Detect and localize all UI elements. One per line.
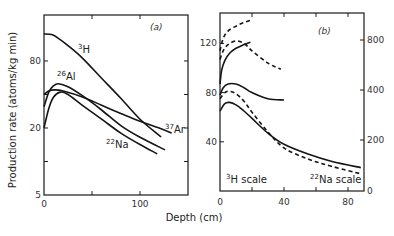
series-line-22na bbox=[44, 92, 157, 154]
series-line-3h-dashed bbox=[220, 41, 281, 69]
panel-a-frame bbox=[44, 15, 188, 195]
panel-b-y-tick-label-left: 120 bbox=[200, 38, 217, 48]
panel-b-y-tick-label-right: 200 bbox=[367, 135, 384, 145]
panel-a-label: (a) bbox=[150, 22, 163, 32]
panel-b-label: (b) bbox=[318, 26, 331, 36]
series-line-37ar bbox=[44, 90, 172, 133]
panel-b-y-tick-label-left: 40 bbox=[206, 137, 218, 147]
panel-a-y-tick-label: 5 bbox=[35, 190, 41, 200]
series-line-3h bbox=[44, 34, 161, 137]
panel-b-y-tick-label-right: 0 bbox=[367, 186, 373, 196]
panel-a: (a) 010052080 3H26Al37Ar22Na bbox=[30, 15, 188, 209]
series-line-3h-solid bbox=[220, 42, 250, 84]
series-label-3h: 3H bbox=[78, 43, 90, 55]
series-label-37ar: 37Ar bbox=[165, 123, 186, 135]
series-line-22na-solid-lower bbox=[220, 102, 361, 167]
series-line-22na-dashed bbox=[220, 91, 361, 173]
panel-b: (b) 0408040801200200400800 3H scale22Na … bbox=[200, 13, 385, 207]
panel-b-y-tick-label-right: 800 bbox=[367, 35, 384, 45]
panel-a-y-tick-label: 80 bbox=[30, 56, 42, 66]
panel-a-x-tick-label: 100 bbox=[131, 199, 148, 209]
panel-b-x-tick-label: 40 bbox=[278, 197, 290, 207]
panel-b-y-tick-label-left: 80 bbox=[206, 88, 218, 98]
series-line-22na-solid-upper bbox=[220, 84, 284, 100]
scale-annotation-h: 3H scale bbox=[226, 173, 267, 185]
panel-b-y-tick-label-right: 400 bbox=[367, 85, 384, 95]
panel-b-x-tick-label: 0 bbox=[217, 197, 223, 207]
series-label-26al: 26Al bbox=[57, 70, 76, 82]
series-line-26al bbox=[44, 84, 165, 150]
y-axis-label: Production rate (atoms/kg min) bbox=[7, 32, 18, 188]
panel-a-y-tick-label: 20 bbox=[30, 123, 42, 133]
panel-b-x-tick-label: 80 bbox=[342, 197, 354, 207]
chart-figure: Production rate (atoms/kg min) Depth (cm… bbox=[0, 0, 394, 236]
series-label-22na: 22Na bbox=[106, 138, 129, 150]
x-axis-label: Depth (cm) bbox=[166, 212, 223, 223]
panel-a-x-tick-label: 0 bbox=[41, 199, 47, 209]
scale-annotation-na: 22Na scale bbox=[310, 173, 361, 185]
